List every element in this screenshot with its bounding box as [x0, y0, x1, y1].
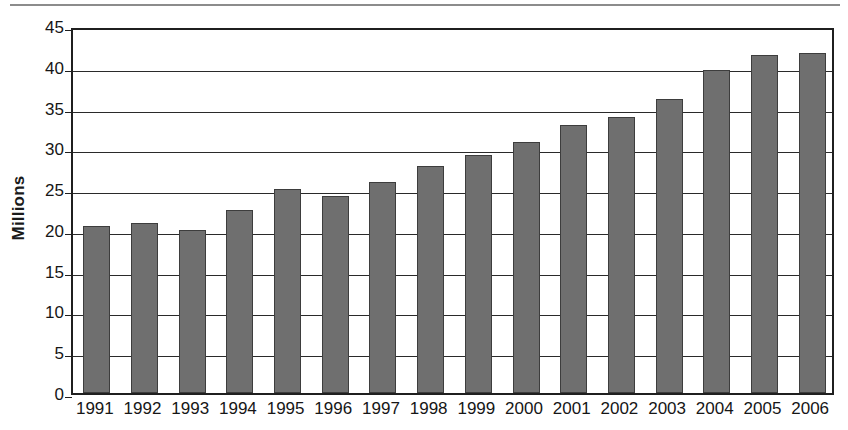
y-axis-tick-label: 0: [20, 386, 64, 403]
y-axis-tick: [65, 71, 72, 72]
x-axis-tick-label: 2004: [691, 399, 739, 419]
y-axis-tick-label: 20: [20, 223, 64, 240]
bar: [83, 226, 110, 393]
y-axis-tick: [65, 193, 72, 194]
x-axis-tick-label: 1999: [453, 399, 501, 419]
y-axis-tick-label: 25: [20, 182, 64, 199]
y-axis-tick: [65, 30, 72, 31]
y-axis-tick: [65, 234, 72, 235]
x-axis-tick-label: 1998: [405, 399, 453, 419]
plot-area: [71, 28, 834, 395]
x-axis-tick-label: 2000: [500, 399, 548, 419]
y-axis-tick: [65, 152, 72, 153]
x-axis-tick-label: 1993: [166, 399, 214, 419]
y-axis-tick: [65, 356, 72, 357]
y-axis-tick: [65, 397, 72, 398]
y-axis-tick: [65, 275, 72, 276]
x-axis-tick-label: 1997: [357, 399, 405, 419]
bar: [226, 210, 253, 394]
bar: [656, 99, 683, 393]
y-axis-tick-label: 30: [20, 141, 64, 158]
y-axis-tick: [65, 112, 72, 113]
y-axis-tick-labels: 051015202530354045: [16, 28, 64, 395]
bar: [322, 196, 349, 393]
bar: [751, 55, 778, 393]
y-axis-tick-label: 45: [20, 19, 64, 36]
x-axis-tick-label: 1996: [309, 399, 357, 419]
y-axis-tick: [65, 315, 72, 316]
bar: [274, 189, 301, 393]
bar: [131, 223, 158, 393]
x-axis-tick-labels: 1991199219931994199519961997199819992000…: [71, 399, 834, 425]
bar: [369, 182, 396, 393]
x-axis-tick-label: 2002: [596, 399, 644, 419]
y-axis-tick-label: 35: [20, 101, 64, 118]
x-axis-tick-label: 1995: [262, 399, 310, 419]
x-axis-tick-label: 1992: [119, 399, 167, 419]
x-axis-tick-label: 1994: [214, 399, 262, 419]
page-divider-rule: [10, 4, 840, 6]
bar: [513, 142, 540, 393]
y-axis-tick-label: 15: [20, 264, 64, 281]
y-axis-tick-label: 10: [20, 304, 64, 321]
bar: [417, 166, 444, 393]
bar: [703, 70, 730, 393]
bar: [179, 230, 206, 393]
bar: [465, 155, 492, 393]
bar-chart-figure: Millions 051015202530354045 199119921993…: [0, 0, 848, 430]
bar: [608, 117, 635, 393]
x-axis-tick-label: 2005: [739, 399, 787, 419]
x-axis-tick-label: 2006: [786, 399, 834, 419]
bar: [799, 53, 826, 393]
bar: [560, 125, 587, 393]
y-axis-tick-label: 40: [20, 60, 64, 77]
x-axis-tick-label: 1991: [71, 399, 119, 419]
y-axis-tick-label: 5: [20, 345, 64, 362]
x-axis-tick-label: 2001: [548, 399, 596, 419]
x-axis-tick-label: 2003: [643, 399, 691, 419]
